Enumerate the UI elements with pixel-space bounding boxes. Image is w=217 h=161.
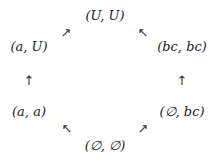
- node-lower-right: (∅, bc): [159, 105, 204, 118]
- node-bottom: (∅, ∅): [85, 139, 125, 152]
- node-lower-left: (a, a): [12, 105, 46, 118]
- node-upper-left: (a, U): [10, 40, 47, 53]
- arrow-northeast-icon: ↗: [138, 122, 149, 135]
- arrow-northwest-icon: ↖: [138, 26, 149, 39]
- arrow-northwest-icon: ↖: [62, 122, 73, 135]
- arrow-northeast-icon: ↗: [61, 26, 72, 39]
- arrow-up-icon: ↑: [177, 74, 188, 87]
- arrow-up-icon: ↑: [24, 74, 35, 87]
- node-top: (U, U): [85, 9, 124, 22]
- node-upper-right: (bc, bc): [157, 40, 207, 53]
